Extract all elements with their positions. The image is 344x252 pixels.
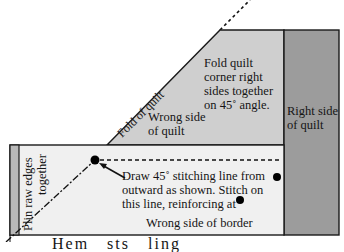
fold-instruction-line-1: Fold quilt — [204, 57, 253, 70]
wrong-side-quilt-line-2: of quilt — [148, 125, 184, 138]
fold-instruction-line-4: on 45˚ angle. — [204, 99, 270, 112]
pin-raw-edges-line-2: together — [36, 154, 49, 195]
wrong-side-quilt-line-1: Wrong side — [148, 111, 205, 124]
draw-instruction-line-2: outward as shown. Stitch on — [122, 184, 263, 197]
dot-symbol-2 — [236, 196, 244, 204]
draw-instruction-line-1: Draw 45˚ stitching line from — [122, 170, 265, 183]
cutoff-bottom-text: Hem sts ling — [52, 237, 181, 250]
raw-edge-strip — [10, 145, 19, 235]
dot-symbol-1 — [273, 173, 281, 181]
fold-instruction-line-2: corner right — [204, 71, 263, 84]
fold-instruction-line-3: sides together — [204, 85, 273, 98]
reinforce-dot — [91, 156, 100, 165]
fold-extension-dashed-line — [220, 0, 250, 30]
right-side-quilt-region — [284, 30, 339, 235]
draw-instruction-line-3: this line, reinforcing at — [122, 198, 236, 211]
pin-raw-edges-line-1: Plin raw edges — [22, 157, 35, 231]
right-side-quilt-line-1: Right side — [287, 105, 338, 118]
right-side-quilt-line-2: of quilt — [287, 119, 323, 132]
wrong-side-border-label: Wrong side of border — [146, 217, 253, 230]
